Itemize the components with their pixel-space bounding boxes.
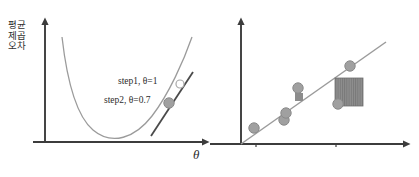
step1-marker [176, 80, 184, 88]
data-point [345, 61, 355, 71]
data-point [281, 108, 291, 118]
mse-axis-caption: 평균 제곱 오차 [8, 20, 42, 52]
theta-axis-label: θ [193, 148, 199, 163]
data-point [249, 123, 259, 133]
residual-square-small-2 [295, 93, 303, 101]
right-panel-regression: y x 100 200 f(x)=0.7x [210, 0, 419, 177]
loss-curve [62, 37, 192, 138]
left-panel-gradient-descent: 평균 제곱 오차 θ step1, θ=1 step2, θ=0.7 [0, 0, 210, 177]
mse-caption-line-3: 오차 [8, 41, 42, 52]
figure-container: 평균 제곱 오차 θ step1, θ=1 step2, θ=0.7 [0, 0, 419, 177]
step2-marker [164, 98, 174, 108]
step1-annotation: step1, θ=1 [118, 76, 157, 87]
data-point [293, 83, 303, 93]
step2-annotation: step2, θ=0.7 [104, 95, 151, 106]
regression-fit-line [241, 42, 386, 144]
right-panel-plot [210, 0, 419, 177]
data-point [333, 99, 343, 109]
